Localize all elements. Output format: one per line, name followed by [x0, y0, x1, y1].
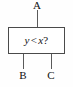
comparator-diagram: A y<x? B C: [0, 0, 73, 87]
comparator-expression: y<x?: [24, 35, 48, 46]
operator-less-than: <: [30, 34, 39, 46]
terminal-label-c: C: [44, 70, 58, 81]
wire-b: [23, 54, 24, 69]
wire-a: [37, 10, 38, 27]
terminal-label-b: B: [16, 70, 30, 81]
comparator-box: y<x?: [8, 27, 65, 54]
wire-c: [51, 54, 52, 69]
operand-left: y: [24, 34, 29, 46]
question-mark: ?: [43, 34, 48, 46]
